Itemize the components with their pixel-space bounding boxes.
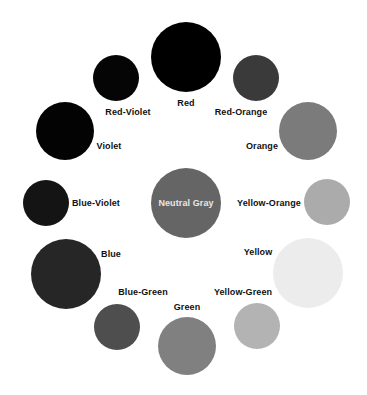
- yellow-orange-label: Yellow-Orange: [237, 198, 301, 208]
- violet-circle: [36, 102, 94, 160]
- orange-label: Orange: [246, 141, 278, 151]
- yellow-orange-circle: [304, 179, 350, 225]
- red-orange-label: Red-Orange: [215, 107, 268, 117]
- blue-violet-circle: [23, 180, 69, 226]
- yellow-circle: [273, 238, 343, 308]
- orange-circle: [279, 102, 337, 160]
- blue-green-circle: [94, 304, 140, 350]
- red-orange-circle: [233, 55, 279, 101]
- yellow-label: Yellow: [244, 247, 273, 257]
- red-violet-circle: [93, 55, 139, 101]
- green-circle: [158, 317, 216, 375]
- red-violet-label: Red-Violet: [105, 107, 150, 117]
- red-circle: [151, 22, 221, 92]
- green-label: Green: [174, 302, 201, 312]
- violet-label: Violet: [97, 141, 122, 151]
- neutral-gray-label: Neutral Gray: [158, 198, 213, 208]
- blue-label: Blue: [101, 249, 121, 259]
- blue-circle: [31, 239, 101, 309]
- blue-violet-label: Blue-Violet: [72, 198, 120, 208]
- red-label: Red: [177, 98, 194, 108]
- yellow-green-circle: [234, 303, 280, 349]
- blue-green-label: Blue-Green: [118, 287, 168, 297]
- yellow-green-label: Yellow-Green: [214, 287, 272, 297]
